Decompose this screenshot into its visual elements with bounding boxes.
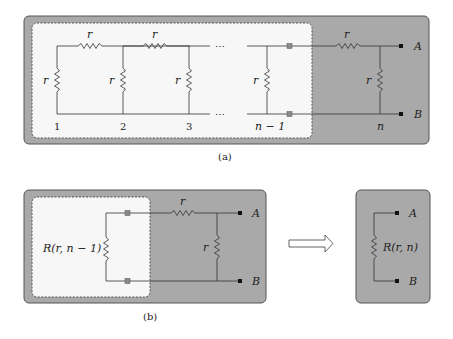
- figure-b: R(r, n − 1) r r A B (b): [24, 190, 266, 322]
- node-label-3: 3: [186, 121, 192, 132]
- resistor-label: r: [175, 74, 181, 87]
- junction-node: [287, 112, 292, 117]
- resistor-label: r: [366, 74, 372, 87]
- terminal-a: [238, 211, 242, 215]
- resistor-label: r: [87, 28, 93, 41]
- junction-node: [125, 279, 130, 284]
- resistor-label: r: [253, 74, 259, 87]
- node-label-n: n: [377, 120, 384, 133]
- figure-a: r r r r r r r r ⋯ ⋯ 1 2 3 n − 1 n A B (a…: [24, 16, 429, 162]
- node-label-1: 1: [54, 121, 60, 132]
- terminal-label-b: B: [413, 108, 422, 121]
- terminal-label-a: A: [413, 40, 422, 53]
- resistor-label: r: [43, 74, 49, 87]
- resistor-label: r: [344, 28, 350, 41]
- terminal-a: [395, 211, 399, 215]
- node-label-2: 2: [120, 121, 126, 132]
- resistor-label: r: [109, 74, 115, 87]
- ladder-network-diagram: r r r r r r r r ⋯ ⋯ 1 2 3 n − 1 n A B (a…: [0, 0, 453, 339]
- equivalent-resistance-label: R(r, n): [382, 241, 418, 254]
- caption-a: (a): [218, 151, 232, 162]
- resistor-label: r: [180, 195, 186, 208]
- ellipsis-top: ⋯: [215, 41, 225, 52]
- node-label-n-minus-1: n − 1: [255, 120, 285, 133]
- caption-b: (b): [143, 311, 157, 322]
- equivalent-resistance-label: R(r, n − 1): [42, 242, 101, 255]
- terminal-a: [399, 44, 403, 48]
- junction-node: [125, 211, 130, 216]
- terminal-label-a: A: [251, 207, 260, 220]
- terminal-b: [238, 279, 242, 283]
- ellipsis-bottom: ⋯: [215, 109, 225, 120]
- terminal-label-b: B: [251, 275, 260, 288]
- terminal-label-a: A: [408, 207, 417, 220]
- resistor-label: r: [152, 28, 158, 41]
- junction-node: [287, 44, 292, 49]
- terminal-label-b: B: [408, 275, 417, 288]
- resistor-label: r: [203, 241, 209, 254]
- terminal-b: [395, 279, 399, 283]
- right-arrow-icon: [289, 235, 333, 252]
- terminal-b: [399, 112, 403, 116]
- figure-c: A B R(r, n): [356, 190, 430, 303]
